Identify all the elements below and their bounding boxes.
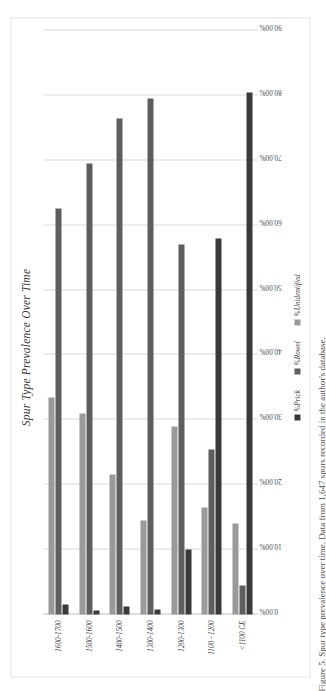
bar: [171, 426, 177, 614]
chart-legend: %Prick%Rowel%Unidentified: [293, 18, 301, 676]
bar-group: [226, 32, 257, 614]
category-tick-label: 1100 - 1200: [207, 620, 215, 654]
value-axis-tick-label: 10.00%: [259, 541, 281, 549]
legend-label: %Prick: [293, 390, 301, 412]
category-axis-labels: <1100 CE1100 - 12001200-13001300-1400140…: [43, 616, 257, 676]
category-tick-label: <1100 CE: [238, 620, 246, 650]
category-tick-label: 1300-1400: [146, 620, 154, 651]
bar-rows: [43, 32, 257, 614]
legend-item[interactable]: %Rowel: [293, 341, 301, 374]
value-axis-tick-label: 20.00%: [259, 476, 281, 484]
bar: [109, 475, 115, 615]
bar: [62, 604, 68, 614]
gridline: [43, 29, 257, 30]
bar: [246, 92, 252, 614]
bar-group: [74, 32, 105, 614]
bar: [116, 118, 122, 614]
bar: [123, 606, 129, 614]
legend-label: %Rowel: [293, 341, 301, 365]
value-axis-tick-label: 30.00%: [259, 411, 281, 419]
legend-item[interactable]: %Prick: [293, 390, 301, 421]
legend-item[interactable]: %Unidentified: [293, 274, 301, 325]
bar: [55, 208, 61, 614]
value-axis-tick-label: 70.00%: [259, 152, 281, 160]
bar-group: [43, 32, 74, 614]
bar: [208, 449, 214, 614]
value-axis-tick-label: 90.00%: [259, 22, 281, 30]
category-tick-label: 1600-1700: [54, 620, 62, 651]
legend-swatch-icon: [294, 319, 300, 325]
bar-group: [196, 32, 227, 614]
value-axis-tick-label: 80.00%: [259, 87, 281, 95]
bar: [147, 98, 153, 614]
category-tick-label: 1400-1500: [115, 620, 123, 651]
category-tick-label: 1500-1600: [85, 620, 93, 651]
legend-swatch-icon: [294, 414, 300, 420]
value-axis-tick-label: 40.00%: [259, 346, 281, 354]
bar: [215, 238, 221, 614]
category-tick-label: 1200-1300: [177, 620, 185, 651]
bar: [48, 397, 54, 614]
bar-group: [135, 32, 166, 614]
bar: [140, 520, 146, 614]
bar: [232, 523, 238, 614]
value-axis-tick-label: 50.00%: [259, 282, 281, 290]
bar: [79, 413, 85, 614]
value-axis-tick-label: 0.00%: [259, 606, 278, 614]
bar: [86, 163, 92, 614]
bar: [185, 549, 191, 614]
chart-card: Spur Type Prevalence Over Time <1100 CE1…: [10, 17, 310, 677]
plot-area: [43, 32, 257, 614]
bar: [93, 610, 99, 614]
bar-group: [165, 32, 196, 614]
legend-label: %Unidentified: [293, 274, 301, 316]
value-axis-tick-label: 60.00%: [259, 217, 281, 225]
bar: [239, 585, 245, 614]
legend-swatch-icon: [294, 368, 300, 374]
bar-group: [104, 32, 135, 614]
bar: [154, 609, 160, 614]
bar: [201, 507, 207, 614]
bar: [178, 244, 184, 614]
figure-caption: Figure 5. Spur type prevalence over time…: [316, 0, 326, 691]
chart-title: Spur Type Prevalence Over Time: [19, 18, 31, 676]
